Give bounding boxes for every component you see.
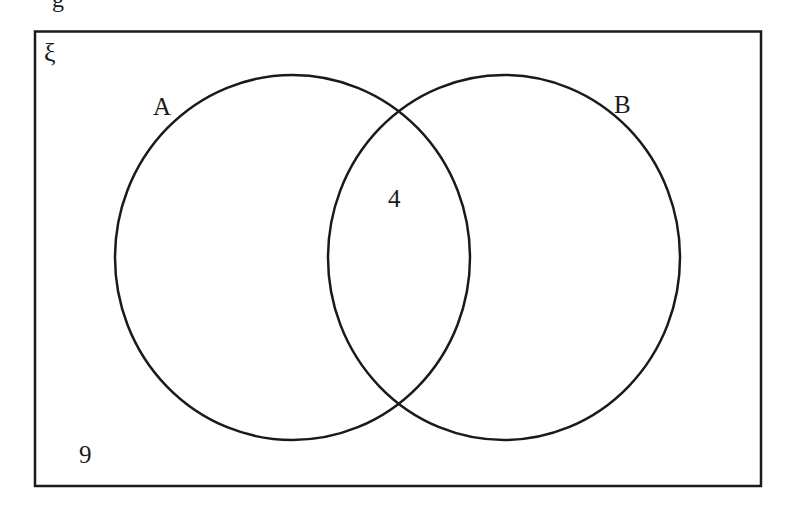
set-b-label: B [614,92,631,117]
universal-set-rectangle [35,32,761,487]
set-a-label: A [153,94,171,119]
set-a-circle [115,75,470,440]
outside-value: 9 [79,442,92,467]
universal-set-label: ξ [44,40,56,66]
set-b-circle [328,75,680,440]
venn-diagram [0,0,791,512]
intersection-value: 4 [388,186,401,211]
